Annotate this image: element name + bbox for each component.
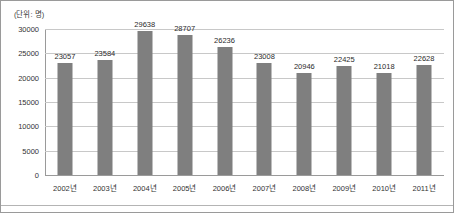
- y-axis-tick-label: 20000: [18, 73, 39, 82]
- x-axis-tick-label: 2010년: [372, 182, 396, 193]
- x-axis-tick-label: 2008년: [293, 182, 317, 193]
- y-axis-tick-label: 15000: [18, 98, 39, 107]
- x-axis-tick-label: 2003년: [93, 182, 117, 193]
- y-axis-tick-labels: 050001000015000200002500030000: [1, 29, 39, 175]
- x-axis-tick-label: 2006년: [213, 182, 237, 193]
- unit-annotation: (단위: 명): [14, 8, 44, 19]
- x-axis-tick-label: 2004년: [133, 182, 157, 193]
- x-axis-tick-label: 2011년: [412, 182, 435, 193]
- x-axis-tick-label: 2005년: [173, 182, 197, 193]
- x-axis-tick-label: 2007년: [253, 182, 277, 193]
- y-axis-tick-label: 10000: [18, 122, 39, 131]
- x-axis-tick-labels: 2002년2003년2004년2005년2006년2007년2008년2009년…: [45, 1, 444, 213]
- bar-chart-figure: (단위: 명) 050001000015000200002500030000 2…: [0, 0, 454, 213]
- y-axis-tick-label: 25000: [18, 49, 39, 58]
- y-axis-tick-label: 5000: [22, 146, 39, 155]
- y-axis-tick-label: 0: [35, 171, 39, 180]
- y-axis-tick-label: 30000: [18, 25, 39, 34]
- x-axis-tick-label: 2009년: [332, 182, 356, 193]
- bottom-divider: [1, 205, 453, 206]
- x-axis-tick-label: 2002년: [53, 182, 77, 193]
